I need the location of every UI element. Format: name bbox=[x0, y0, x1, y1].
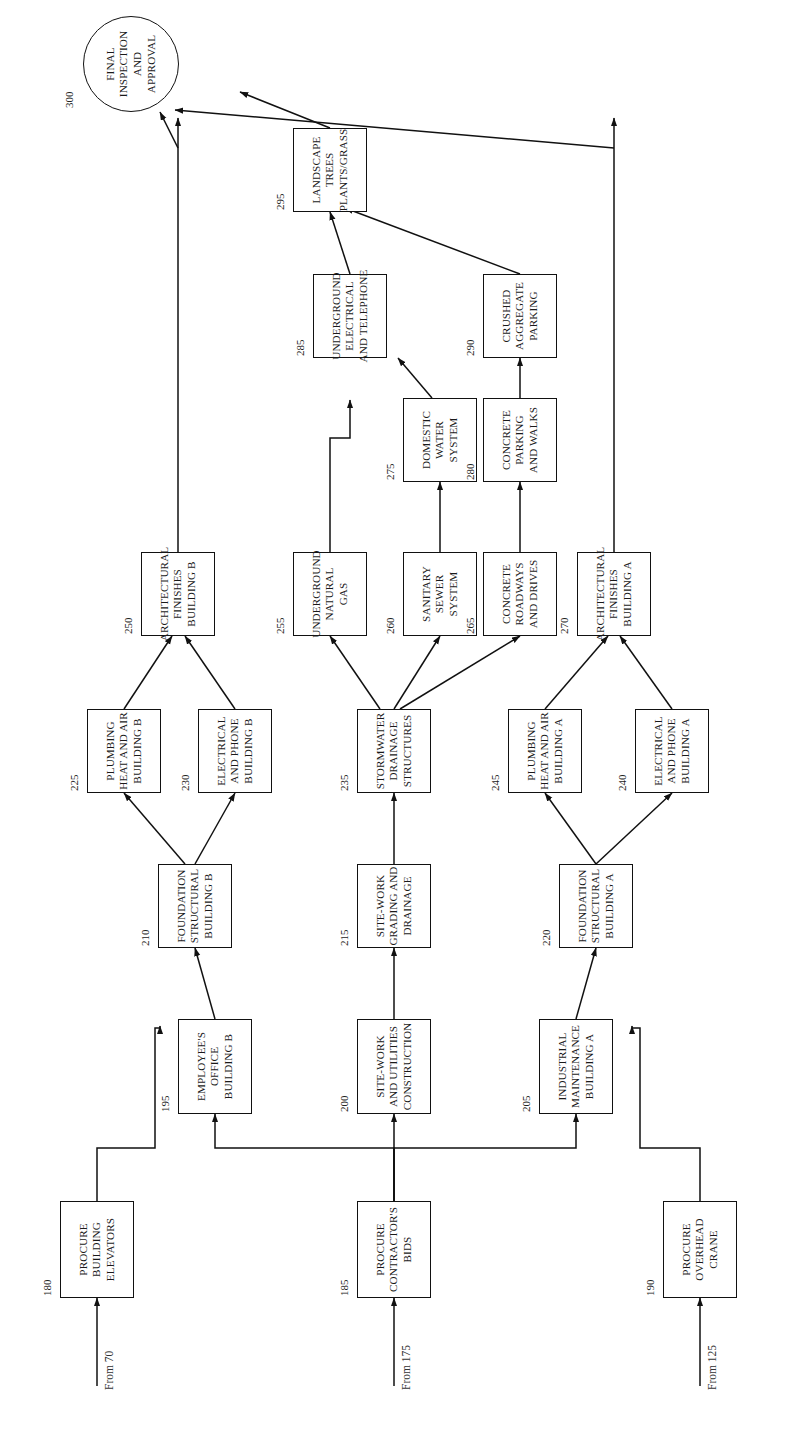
entry-label-from-125: From 125 bbox=[706, 1345, 718, 1390]
node-205-line-1: MAINTENANCE bbox=[569, 1025, 583, 1108]
node-295-line-2: PLANTS/GRASS bbox=[337, 129, 351, 212]
node-205[interactable]: INDUSTRIAL MAINTENANCE BUILDING A bbox=[539, 1019, 613, 1114]
node-265-line-2: AND DRIVES bbox=[527, 560, 541, 628]
node-195-line-2: BUILDING B bbox=[222, 1034, 236, 1099]
node-220-line-1: STRUCTURAL bbox=[589, 869, 603, 943]
node-270-line-2: BUILDING A bbox=[621, 561, 635, 626]
node-215[interactable]: SITE-WORK GRADING AND DRAINAGE bbox=[357, 864, 431, 948]
node-180-line-1: BUILDING bbox=[90, 1222, 104, 1277]
node-200-line-0: SITE-WORK bbox=[374, 1035, 388, 1097]
node-210-line-1: STRUCTURAL bbox=[188, 869, 202, 943]
entry-label-from-70: From 70 bbox=[103, 1351, 115, 1390]
node-230-line-1: AND PHONE bbox=[228, 718, 242, 783]
node-235-line-0: STORMWATER bbox=[374, 713, 388, 790]
node-300-line-0: FINAL bbox=[104, 47, 118, 80]
node-280-number: 280 bbox=[464, 464, 476, 481]
node-300-number: 300 bbox=[63, 92, 75, 109]
node-240-line-0: ELECTRICAL bbox=[652, 716, 666, 785]
node-185-line-0: PROCURE bbox=[374, 1223, 388, 1275]
node-295-number: 295 bbox=[274, 194, 286, 211]
node-255-line-0: UNDERGROUND bbox=[310, 550, 324, 638]
network-diagram-canvas: PROCURE BUILDING ELEVATORS 180 PROCURE C… bbox=[0, 0, 787, 1448]
node-230[interactable]: ELECTRICAL AND PHONE BUILDING B bbox=[198, 709, 272, 793]
node-260-line-1: SEWER bbox=[433, 575, 447, 613]
node-295-line-0: LANDSCAPE bbox=[310, 137, 324, 204]
node-215-line-0: SITE-WORK bbox=[374, 875, 388, 937]
node-265-number: 265 bbox=[464, 618, 476, 635]
node-245-number: 245 bbox=[489, 775, 501, 792]
node-285[interactable]: UNDERGROUND ELECTRICAL AND TELEPHONE bbox=[313, 274, 387, 358]
node-185[interactable]: PROCURE CONTRACTOR'S BIDS bbox=[357, 1201, 431, 1298]
node-210-number: 210 bbox=[139, 930, 151, 947]
node-180[interactable]: PROCURE BUILDING ELEVATORS bbox=[60, 1201, 134, 1298]
node-270-line-0: ARCHITECTURAL bbox=[594, 547, 608, 642]
node-240-line-2: BUILDING A bbox=[679, 718, 693, 783]
node-210-line-0: FOUNDATION bbox=[175, 869, 189, 942]
node-235-line-2: STRUCTURES bbox=[401, 715, 415, 788]
node-180-line-0: PROCURE bbox=[77, 1223, 91, 1275]
node-295-line-1: TREES bbox=[323, 153, 337, 188]
node-200-line-1: AND UTILITIES bbox=[387, 1026, 401, 1107]
node-275-line-0: DOMESTIC bbox=[420, 411, 434, 469]
node-195-line-1: OFFICE bbox=[208, 1047, 222, 1086]
node-235-number: 235 bbox=[338, 775, 350, 792]
node-225-line-2: BUILDING B bbox=[131, 718, 145, 783]
node-240-number: 240 bbox=[616, 775, 628, 792]
node-245[interactable]: PLUMBING HEAT AND AIR BUILDING A bbox=[508, 709, 582, 793]
node-250-line-0: ARCHITECTURAL bbox=[158, 547, 172, 642]
node-200[interactable]: SITE-WORK AND UTILITIES CONSTRUCTION bbox=[357, 1019, 431, 1114]
node-290-line-1: AGGREGATE bbox=[513, 282, 527, 350]
node-195[interactable]: EMPLOYEE'S OFFICE BUILDING B bbox=[178, 1019, 252, 1114]
node-270[interactable]: ARCHITECTURAL FINISHES BUILDING A bbox=[577, 552, 651, 636]
node-265[interactable]: CONCRETE ROADWAYS AND DRIVES bbox=[483, 552, 557, 636]
node-250[interactable]: ARCHITECTURAL FINISHES BUILDING B bbox=[141, 552, 215, 636]
node-280-line-0: CONCRETE bbox=[500, 410, 514, 470]
node-215-line-1: GRADING AND bbox=[387, 866, 401, 945]
node-225[interactable]: PLUMBING HEAT AND AIR BUILDING B bbox=[87, 709, 161, 793]
node-255[interactable]: UNDERGROUND NATURAL GAS bbox=[293, 552, 367, 636]
node-200-line-2: CONSTRUCTION bbox=[401, 1023, 415, 1111]
node-270-number: 270 bbox=[558, 618, 570, 635]
node-275-number: 275 bbox=[384, 464, 396, 481]
node-240[interactable]: ELECTRICAL AND PHONE BUILDING A bbox=[635, 709, 709, 793]
node-190-line-0: PROCURE bbox=[680, 1223, 694, 1275]
node-280-line-2: AND WALKS bbox=[527, 407, 541, 473]
node-190[interactable]: PROCURE OVERHEAD CRANE bbox=[663, 1201, 737, 1298]
node-215-line-2: DRAINAGE bbox=[401, 876, 415, 935]
node-190-line-2: CRANE bbox=[707, 1230, 721, 1268]
node-265-line-0: CONCRETE bbox=[500, 564, 514, 624]
node-245-line-2: BUILDING A bbox=[552, 718, 566, 783]
node-265-line-1: ROADWAYS bbox=[513, 562, 527, 625]
node-300[interactable]: FINAL INSPECTION AND APPROVAL bbox=[83, 16, 179, 112]
node-225-line-1: HEAT AND AIR bbox=[117, 712, 131, 789]
node-300-line-2: AND bbox=[131, 52, 145, 77]
node-235-line-1: DRAINAGE bbox=[387, 721, 401, 780]
node-290[interactable]: CRUSHED AGGREGATE PARKING bbox=[483, 274, 557, 358]
node-185-line-2: BIDS bbox=[401, 1237, 415, 1263]
node-205-line-2: BUILDING A bbox=[583, 1034, 597, 1099]
node-225-line-0: PLUMBING bbox=[104, 721, 118, 780]
node-245-line-0: PLUMBING bbox=[525, 721, 539, 780]
node-285-line-0: UNDERGROUND bbox=[330, 272, 344, 360]
node-295[interactable]: LANDSCAPE TREES PLANTS/GRASS bbox=[293, 128, 367, 212]
node-250-line-1: FINISHES bbox=[171, 569, 185, 619]
node-260-line-0: SANITARY bbox=[420, 566, 434, 622]
node-245-line-1: HEAT AND AIR bbox=[538, 712, 552, 789]
node-185-number: 185 bbox=[338, 1280, 350, 1297]
node-260-number: 260 bbox=[384, 618, 396, 635]
node-210[interactable]: FOUNDATION STRUCTURAL BUILDING B bbox=[158, 864, 232, 948]
node-255-number: 255 bbox=[274, 618, 286, 635]
node-290-number: 290 bbox=[464, 340, 476, 357]
node-300-line-1: INSPECTION bbox=[117, 31, 131, 97]
node-285-line-2: AND TELEPHONE bbox=[357, 270, 371, 363]
node-220-line-0: FOUNDATION bbox=[576, 869, 590, 942]
node-255-line-2: GAS bbox=[337, 583, 351, 606]
node-180-number: 180 bbox=[41, 1280, 53, 1297]
node-255-line-1: NATURAL bbox=[323, 568, 337, 621]
node-220[interactable]: FOUNDATION STRUCTURAL BUILDING A bbox=[559, 864, 633, 948]
node-280[interactable]: CONCRETE PARKING AND WALKS bbox=[483, 398, 557, 482]
node-190-number: 190 bbox=[644, 1280, 656, 1297]
node-235[interactable]: STORMWATER DRAINAGE STRUCTURES bbox=[357, 709, 431, 793]
node-250-line-2: BUILDING B bbox=[185, 561, 199, 626]
node-205-line-0: INDUSTRIAL bbox=[556, 1032, 570, 1100]
